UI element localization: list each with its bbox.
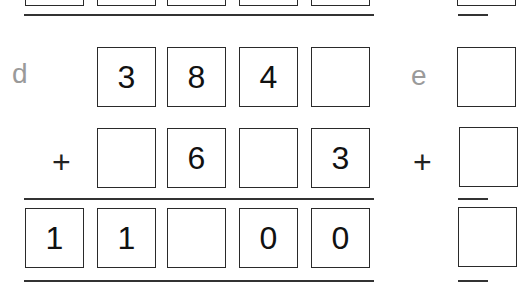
d-row1-col5[interactable] — [311, 47, 370, 107]
d-row1-col2[interactable]: 3 — [97, 47, 156, 107]
e-row2-col1[interactable] — [459, 127, 518, 187]
d-result-col5[interactable]: 0 — [311, 208, 370, 268]
e-sum-line — [458, 198, 488, 200]
prev-result-box-3 — [167, 0, 226, 6]
d-result-col3[interactable] — [167, 208, 226, 268]
e-result-col1[interactable] — [458, 207, 517, 267]
d-bottom-line — [24, 280, 374, 282]
prev-result-box-5 — [311, 0, 370, 6]
d-row2-col5[interactable]: 3 — [311, 128, 370, 188]
d-result-col4[interactable]: 0 — [239, 208, 298, 268]
d-row1-col4[interactable]: 4 — [239, 47, 298, 107]
prev-result-box-2 — [97, 0, 156, 6]
prev-e-underline — [458, 14, 488, 16]
problem-label-d: d — [12, 58, 28, 90]
d-row2-col4[interactable] — [239, 128, 298, 188]
d-row1-col3[interactable]: 8 — [167, 47, 226, 107]
d-row2-col3[interactable]: 6 — [167, 128, 226, 188]
d-result-col1[interactable]: 1 — [25, 208, 84, 268]
d-result-col2[interactable]: 1 — [97, 208, 156, 268]
prev-result-box-1 — [25, 0, 84, 6]
d-row2-col2[interactable] — [97, 128, 156, 188]
e-plus-operator: + — [413, 144, 432, 181]
d-plus-operator: + — [52, 144, 71, 181]
prev-underline — [24, 14, 374, 16]
problem-label-e: e — [411, 60, 427, 92]
e-bottom-line — [458, 280, 488, 282]
prev-result-box-4 — [239, 0, 298, 6]
e-row1-col1[interactable] — [457, 47, 516, 107]
prev-e-result-box — [457, 0, 516, 6]
d-sum-line — [24, 198, 374, 200]
